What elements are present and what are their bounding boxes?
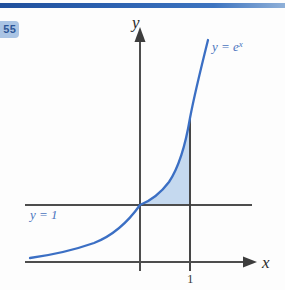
y-axis-label: y: [130, 13, 140, 32]
x-axis-arrowhead: [243, 257, 257, 268]
x-axis-label: x: [261, 253, 270, 272]
shaded-area-region: [140, 118, 190, 205]
x-tick-label-1: 1: [187, 271, 194, 286]
curve-label-exponent: x: [238, 39, 243, 49]
figure-page: 55 y x 1 y = 1 y = ex: [0, 0, 285, 290]
exponential-curve: [30, 40, 208, 258]
exponential-graph-figure: y x 1 y = 1 y = ex: [0, 0, 285, 290]
asymptote-label: y = 1: [28, 207, 58, 222]
curve-label: y = ex: [210, 39, 243, 54]
curve-label-base: y = e: [210, 39, 239, 54]
